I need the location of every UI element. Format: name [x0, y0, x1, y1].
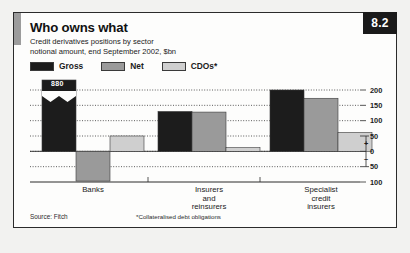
legend-swatch-icon — [101, 62, 125, 71]
bar-cdos-1 — [226, 148, 260, 152]
corner-tab-decoration — [14, 13, 21, 45]
positive-sign: + — [364, 139, 368, 148]
bar-net-2 — [304, 98, 338, 151]
bar-gross-0 — [42, 80, 76, 151]
negative-sign: – — [364, 154, 368, 163]
x-axis-category-label: Banks — [48, 186, 138, 195]
legend-item-cdos: CDOs* — [162, 61, 218, 71]
x-axis-category-label-line: insurers — [276, 203, 366, 212]
page-title: Who owns what — [30, 20, 128, 35]
legend-swatch-icon — [30, 62, 54, 71]
legend-label: CDOs* — [191, 61, 218, 71]
y-axis-tick-label: 0 — [370, 147, 374, 156]
chart-page: 8.2 Who owns what Credit derivatives pos… — [0, 0, 410, 253]
bar-cdos-0 — [110, 136, 144, 151]
x-axis-category-label: Specialistcreditinsurers — [276, 186, 366, 212]
chart-legend: Gross Net CDOs* — [30, 60, 235, 72]
legend-swatch-icon — [162, 62, 186, 71]
y-axis-tick-label: 50 — [370, 132, 378, 141]
y-axis-tick-label: 100 — [370, 178, 382, 187]
footnote-text: *Collateralised debt obligations — [136, 213, 221, 220]
y-axis-tick-label: 100 — [370, 116, 382, 125]
x-axis-category-label-line: Banks — [48, 186, 138, 195]
y-axis-tick-label: 50 — [370, 162, 378, 171]
legend-item-gross: Gross — [30, 61, 83, 71]
y-axis-tick-label: 200 — [370, 86, 382, 95]
x-axis-category-label: Insurersandreinsurers — [164, 186, 254, 212]
bar-gross-1 — [158, 111, 192, 151]
legend-label: Gross — [59, 61, 83, 71]
bar-net-0 — [76, 151, 110, 181]
subtitle-line-2: notional amount, end September 2002, $bn — [30, 47, 176, 56]
source-note: Source: Fitch — [30, 213, 68, 220]
bar-gross-2 — [270, 90, 304, 151]
chart-svg — [30, 79, 382, 194]
y-axis-tick-label: 150 — [370, 101, 382, 110]
x-axis-category-label-line: reinsurers — [164, 203, 254, 212]
plot-area: 880 20015010050050100+–BanksInsurersandr… — [30, 79, 382, 194]
legend-item-net: Net — [101, 61, 144, 71]
subtitle-line-1: Credit derivatives positions by sector — [30, 37, 154, 46]
chart-number-badge: 8.2 — [363, 12, 397, 34]
legend-label: Net — [130, 61, 144, 71]
truncated-bar-value-label: 880 — [51, 80, 64, 87]
chart-frame: 8.2 Who owns what Credit derivatives pos… — [13, 12, 397, 228]
chart-number-text: 8.2 — [371, 16, 388, 30]
bar-net-1 — [192, 112, 226, 151]
